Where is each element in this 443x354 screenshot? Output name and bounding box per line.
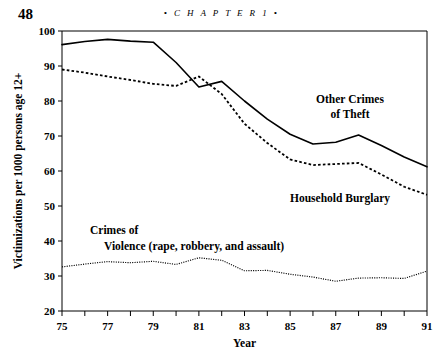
- y-axis-tick-label: 20: [44, 305, 56, 317]
- x-axis-tick-label: 87: [330, 320, 342, 332]
- x-axis-tick-label: 91: [422, 320, 433, 332]
- plot-frame: [62, 31, 427, 311]
- y-axis-tick-label: 80: [44, 95, 56, 107]
- annotation-crimes-of-violence: Violence (rape, robbery, and assault): [104, 240, 284, 253]
- x-axis-tick-label: 79: [148, 320, 160, 332]
- annotation-household-burglary: Household Burglary: [290, 192, 390, 205]
- line-chart-figure: 2030405060708090100757779818385878991Yea…: [0, 0, 443, 354]
- y-axis-tick-label: 90: [44, 60, 56, 72]
- x-axis-tick-label: 89: [376, 320, 388, 332]
- x-axis-tick-label: 77: [102, 320, 114, 332]
- x-axis-tick-label: 83: [239, 320, 251, 332]
- y-axis-tick-label: 70: [44, 130, 56, 142]
- y-axis-tick-label: 100: [39, 25, 56, 37]
- y-axis-title: Victimizations per 1000 persons age 12+: [12, 73, 25, 270]
- y-axis-tick-label: 50: [44, 200, 56, 212]
- chart-svg: 2030405060708090100757779818385878991Yea…: [0, 0, 443, 354]
- y-axis-tick-label: 30: [44, 270, 56, 282]
- page-root: 48 • C H A P T E R 1 • 20304050607080901…: [0, 0, 443, 354]
- x-axis-tick-label: 75: [57, 320, 69, 332]
- x-axis-title: Year: [233, 337, 256, 349]
- x-axis-tick-label: 85: [285, 320, 297, 332]
- annotation-other-theft: Other Crimes: [316, 93, 384, 105]
- y-axis-tick-label: 40: [44, 235, 56, 247]
- annotation-crimes-of-violence: Crimes of: [90, 224, 138, 236]
- series-line-2: [62, 70, 427, 195]
- y-axis-tick-label: 60: [44, 165, 56, 177]
- series-line-3: [62, 258, 427, 281]
- annotation-other-theft: of Theft: [330, 108, 369, 120]
- x-axis-tick-label: 81: [193, 320, 204, 332]
